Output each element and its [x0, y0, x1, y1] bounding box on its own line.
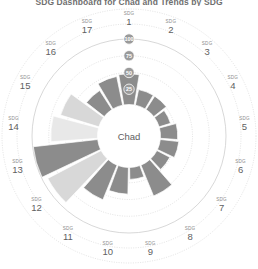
radial-chart-canvas: Chad 100755025 — [0, 0, 258, 269]
tick-bubble-text: 25 — [126, 86, 132, 92]
tick-bubble-75: 75 — [124, 51, 134, 61]
tick-bubble-text: 50 — [126, 70, 132, 76]
tick-bubble-text: 75 — [126, 53, 132, 59]
tick-bubble-text: 100 — [125, 36, 134, 42]
tick-bubble-25: 25 — [124, 84, 134, 94]
tick-bubble-50: 50 — [124, 67, 134, 77]
center-country-label: Chad — [118, 131, 141, 142]
sdg-dashboard-chart: SDG Dashboard for Chad and Trends by SDG… — [0, 0, 258, 269]
axis-tick-bubbles: 100755025 — [124, 34, 134, 95]
tick-bubble-100: 100 — [124, 34, 134, 44]
